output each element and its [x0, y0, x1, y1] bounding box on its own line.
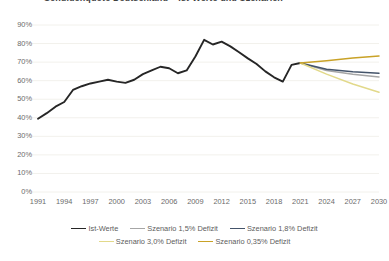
y-axis-tick: 80% [2, 40, 32, 48]
series-lines [38, 40, 379, 119]
legend-swatch-icon [71, 228, 86, 229]
legend-item[interactable]: Szenario 0,35% Defizit [198, 237, 290, 246]
legend-label: Szenario 0,35% Defizit [215, 237, 290, 246]
x-axis-tick: 2030 [364, 198, 389, 206]
y-axis-tick: 90% [2, 21, 32, 29]
legend-label: Szenario 1,5% Defizit [147, 224, 218, 233]
legend-swatch-icon [99, 241, 114, 242]
legend-item[interactable]: Szenario 1,5% Defizit [130, 224, 218, 233]
legend-item[interactable]: Ist-Werte [71, 224, 118, 233]
y-axis-tick: 30% [2, 132, 32, 140]
y-axis-tick: 20% [2, 151, 32, 159]
y-axis-tick: 60% [2, 77, 32, 85]
legend-item[interactable]: Szenario 1,8% Defizit [230, 224, 318, 233]
gridlines [32, 25, 379, 192]
legend-swatch-icon [230, 228, 245, 229]
legend-row-1: Ist-WerteSzenario 1,5% DefizitSzenario 1… [0, 222, 389, 235]
legend-label: Szenario 3,0% Defizit [116, 237, 187, 246]
legend-row-2: Szenario 3,0% DefizitSzenario 0,35% Defi… [0, 235, 389, 248]
series-line [300, 63, 379, 92]
legend-swatch-icon [130, 228, 145, 229]
y-axis-tick: 10% [2, 169, 32, 177]
legend-label: Szenario 1,8% Defizit [247, 224, 318, 233]
series-line [38, 40, 300, 119]
y-axis-tick: 50% [2, 95, 32, 103]
y-axis-tick: 70% [2, 58, 32, 66]
chart-container: Schuldenquote Deutschland – Ist-Werte un… [0, 0, 389, 261]
y-axis-tick: 40% [2, 114, 32, 122]
legend-label: Ist-Werte [88, 224, 118, 233]
legend-swatch-icon [198, 241, 213, 242]
legend-item[interactable]: Szenario 3,0% Defizit [99, 237, 187, 246]
y-axis-tick: 0% [2, 188, 32, 196]
chart-legend: Ist-WerteSzenario 1,5% DefizitSzenario 1… [0, 222, 389, 248]
